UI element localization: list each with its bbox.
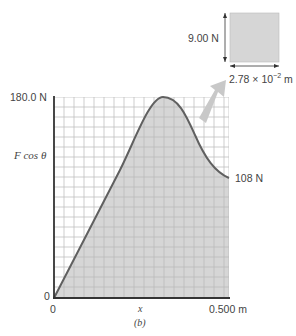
x-axis-label: x bbox=[138, 303, 142, 314]
y-max-label: 180.0 N bbox=[10, 91, 47, 103]
inset-square bbox=[230, 13, 279, 62]
caption: (b) bbox=[134, 317, 146, 328]
y-axis-label: F cos θ bbox=[14, 149, 46, 161]
inset-width-unit: m bbox=[281, 73, 293, 85]
y-zero-label: 0 bbox=[44, 290, 50, 302]
inset-width-base: 2.78 × 10 bbox=[229, 73, 273, 85]
inset-width-label: 2.78 × 10−2 m bbox=[229, 72, 293, 85]
end-value-label: 108 N bbox=[235, 172, 263, 184]
x-zero-label: 0 bbox=[50, 303, 56, 315]
chart-canvas bbox=[0, 0, 296, 336]
inset-height-label: 9.00 N bbox=[188, 32, 219, 44]
x-max-label: 0.500 m bbox=[209, 303, 247, 315]
inset-width-exp: −2 bbox=[273, 72, 281, 79]
pointer-arrow bbox=[199, 80, 226, 123]
